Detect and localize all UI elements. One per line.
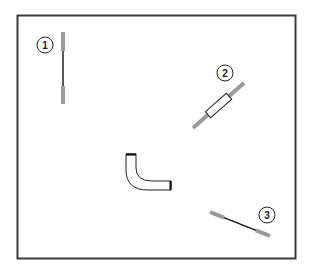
callout-3: 3: [259, 207, 275, 223]
diagram-frame: [18, 16, 296, 259]
callout-1-label: 1: [42, 40, 48, 51]
parts-diagram: 1 2 3: [0, 0, 311, 266]
callout-1: 1: [37, 37, 53, 53]
callout-2: 2: [217, 65, 233, 81]
part-1-bottom-fitting: [61, 86, 65, 104]
part-1-top-fitting: [61, 32, 65, 51]
callout-2-label: 2: [222, 68, 228, 79]
callout-3-label: 3: [264, 210, 270, 221]
